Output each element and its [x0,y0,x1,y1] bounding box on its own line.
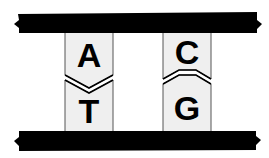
bottom-backbone-bar [14,131,261,151]
base-pair-cg: C G [163,28,211,136]
diagram-canvas: A T C G [0,0,269,158]
base-pair-at: A T [65,28,113,136]
top-backbone-bar [14,12,262,33]
base-letter-c: C [175,33,200,71]
base-letter-a: A [77,36,102,74]
dna-base-pair-figure: A T C G [0,0,269,158]
base-letter-t: T [79,92,100,130]
base-letter-g: G [174,89,200,127]
